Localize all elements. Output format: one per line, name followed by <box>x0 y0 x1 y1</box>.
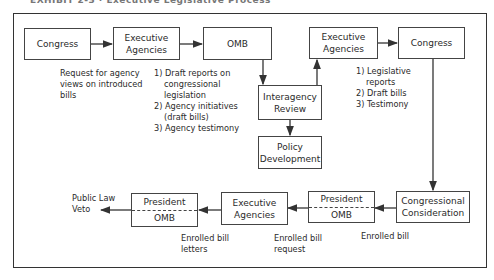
node-label-top: President <box>144 196 186 208</box>
node-label-line1: Policy <box>277 141 303 153</box>
node-president-omb-2: President OMB <box>131 193 198 227</box>
node-policy-development: Policy Development <box>258 136 322 169</box>
note-legislative-outputs: 1) Legislative reports 2) Draft bills 3)… <box>356 66 411 110</box>
node-label-line2: Development <box>260 153 321 165</box>
note-enrolled-bill: Enrolled bill <box>361 231 409 242</box>
node-label-bottom: OMB <box>154 212 175 224</box>
node-label-line2: Agencies <box>126 44 167 56</box>
node-congress-end: Congress <box>398 27 465 59</box>
node-label-line2: Review <box>274 103 306 115</box>
node-label-line1: Congressional <box>401 195 464 207</box>
note-outcome: Public Law Veto <box>72 193 115 215</box>
note-line: bills <box>60 90 143 101</box>
note-line: 3) Testimony <box>356 99 411 110</box>
note-line: reports <box>356 77 411 88</box>
node-label-line1: Executive <box>125 32 169 44</box>
note-line: (draft bills) <box>154 112 239 123</box>
node-executive-agencies-3: Executive Agencies <box>221 192 288 225</box>
note-line: Enrolled bill <box>361 231 409 242</box>
note-line: views on introduced <box>60 79 143 90</box>
note-line: legislation <box>154 90 239 101</box>
node-congress-start: Congress <box>24 28 91 60</box>
note-line: Enrolled bill <box>274 233 322 244</box>
note-line: request <box>274 244 322 255</box>
node-label-bottom: OMB <box>331 209 352 221</box>
note-line: letters <box>181 244 229 255</box>
node-label-top: President <box>321 193 363 205</box>
node-executive-agencies-2: Executive Agencies <box>309 27 378 59</box>
node-president-omb-1: President OMB <box>308 191 375 223</box>
node-interagency-review: Interagency Review <box>258 85 322 120</box>
node-label-line2: Agencies <box>234 209 275 221</box>
node-label: Congress <box>411 37 453 49</box>
note-enrolled-bill-letters: Enrolled bill letters <box>181 233 229 255</box>
node-label-line1: Interagency <box>263 91 317 103</box>
note-line: 1) Draft reports on <box>154 68 239 79</box>
node-label: Congress <box>37 38 79 50</box>
node-label-line2: Agencies <box>323 43 364 55</box>
node-label-line2: Consideration <box>402 207 464 219</box>
note-line: 1) Legislative <box>356 66 411 77</box>
note-line: Enrolled bill <box>181 233 229 244</box>
node-label-line1: Executive <box>233 197 277 209</box>
note-line: 3) Agency testimony <box>154 123 239 134</box>
note-line: Request for agency <box>60 68 143 79</box>
node-congressional-consideration: Congressional Consideration <box>396 191 470 223</box>
note-line: congressional <box>154 79 239 90</box>
note-line: 2) Agency initiatives <box>154 101 239 112</box>
node-executive-agencies-1: Executive Agencies <box>113 27 180 60</box>
node-omb: OMB <box>203 27 272 60</box>
note-line: 2) Draft bills <box>356 88 411 99</box>
note-line: Veto <box>72 204 115 215</box>
node-label: OMB <box>227 38 248 50</box>
node-label-line1: Executive <box>322 31 366 43</box>
note-enrolled-bill-request: Enrolled bill request <box>274 233 322 255</box>
note-line: Public Law <box>72 193 115 204</box>
note-agency-outputs: 1) Draft reports on congressional legisl… <box>154 68 239 134</box>
note-request: Request for agency views on introduced b… <box>60 68 143 101</box>
